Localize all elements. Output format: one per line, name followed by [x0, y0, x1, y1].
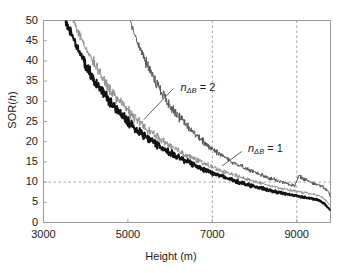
- y-tick-label: 0: [8, 216, 38, 228]
- y-tick-label: 40: [8, 54, 38, 66]
- figure-container: 05101520253035404550 3000500070009000 He…: [0, 0, 342, 273]
- x-tick-label: 9000: [267, 228, 327, 240]
- y-axis-title: SOR(h): [6, 70, 18, 150]
- y-tick-label: 10: [8, 175, 38, 187]
- y-tick-label: 50: [8, 14, 38, 26]
- series-line-2: [130, 21, 330, 197]
- series-line-1: [73, 21, 330, 206]
- x-tick-label: 7000: [182, 228, 242, 240]
- y-tick-label: 15: [8, 155, 38, 167]
- y-axis-title-text: SOR(h): [6, 91, 18, 128]
- annotation-value: = 1: [264, 142, 283, 154]
- annotation-subscript: ΔB: [254, 146, 264, 155]
- x-tick-label: 3000: [14, 228, 74, 240]
- x-tick-label: 5000: [98, 228, 158, 240]
- annotation-subscript: ΔB: [187, 86, 197, 95]
- annotation-ndb-2: nΔB = 2: [180, 81, 215, 95]
- annotation-ndb-1: nΔB = 1: [248, 142, 283, 156]
- annotation-leaders: [144, 88, 242, 166]
- y-tick-label: 5: [8, 195, 38, 207]
- tick-marks: [44, 21, 297, 223]
- y-tick-label: 45: [8, 34, 38, 46]
- x-axis-title: Height (m): [0, 250, 342, 262]
- annotation-value: = 2: [197, 81, 216, 93]
